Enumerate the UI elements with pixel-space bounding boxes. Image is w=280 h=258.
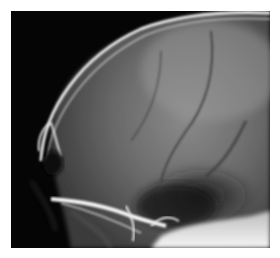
- skull-radiograph: [11, 11, 270, 248]
- xray-image: [11, 11, 270, 248]
